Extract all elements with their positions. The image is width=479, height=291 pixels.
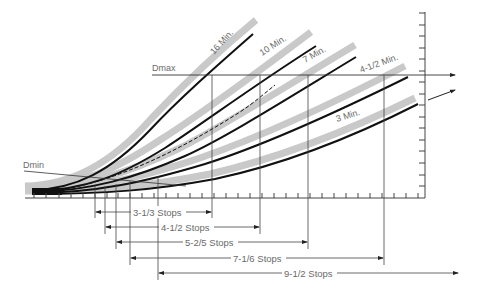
stop-label-3: 5-2/5 Stops xyxy=(185,237,234,248)
stop-label-1: 3-1/3 Stops xyxy=(133,207,182,218)
y-axis-ticks xyxy=(419,13,425,186)
dmin-label: Dmin xyxy=(23,160,44,170)
toe-band xyxy=(32,188,62,195)
dmax-label: Dmax xyxy=(152,63,176,73)
slope-arrow xyxy=(428,90,455,100)
characteristic-curve-diagram: 3-1/3 Stops 4-1/2 Stops 5-2/5 Stops 7-1/… xyxy=(0,0,479,291)
stop-label-4: 7-1/6 Stops xyxy=(233,253,282,264)
stop-labels: 3-1/3 Stops 4-1/2 Stops 5-2/5 Stops 7-1/… xyxy=(131,206,337,279)
stop-label-5: 9-1/2 Stops xyxy=(284,268,333,279)
stop-label-2: 4-1/2 Stops xyxy=(161,222,210,233)
